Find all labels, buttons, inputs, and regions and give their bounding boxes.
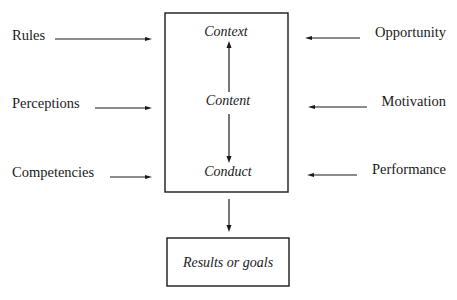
left-input-perceptions: Perceptions: [12, 95, 80, 111]
diagram-canvas: Context Content Conduct Results or goals…: [0, 0, 457, 300]
arrow-left-icon: [305, 36, 360, 40]
arrow-right-icon: [110, 175, 152, 179]
arrow-right-icon: [95, 106, 152, 110]
central-item-conduct: Conduct: [204, 164, 253, 179]
right-input-performance: Performance: [372, 161, 446, 177]
arrow-down-icon: [227, 199, 232, 232]
arrow-down-icon: [227, 114, 232, 163]
central-item-context: Context: [204, 24, 249, 39]
right-input-opportunity: Opportunity: [375, 24, 447, 40]
right-input-motivation: Motivation: [382, 93, 447, 109]
central-item-content: Content: [206, 93, 251, 108]
output-label: Results or goals: [182, 255, 274, 270]
arrow-up-icon: [227, 41, 232, 92]
left-input-competencies: Competencies: [12, 164, 95, 180]
arrow-left-icon: [307, 173, 357, 177]
arrow-right-icon: [55, 37, 152, 41]
left-input-rules: Rules: [12, 27, 45, 43]
arrow-left-icon: [308, 105, 367, 109]
